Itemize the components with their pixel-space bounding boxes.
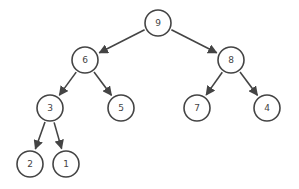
edges-layer xyxy=(35,30,257,149)
tree-node-9: 9 xyxy=(145,10,171,36)
tree-node-5: 5 xyxy=(108,95,134,121)
node-label: 1 xyxy=(63,159,69,169)
node-label: 4 xyxy=(264,103,270,113)
node-label: 6 xyxy=(82,55,88,65)
tree-node-6: 6 xyxy=(72,47,98,73)
node-label: 3 xyxy=(47,103,53,113)
tree-node-8: 8 xyxy=(218,47,244,73)
tree-diagram: 968357421 xyxy=(0,0,299,189)
edge-9-to-8 xyxy=(171,30,216,53)
node-label: 2 xyxy=(27,159,33,169)
node-label: 9 xyxy=(155,18,161,28)
tree-node-4: 4 xyxy=(254,95,280,121)
node-label: 7 xyxy=(194,103,200,113)
node-label: 5 xyxy=(118,103,124,113)
edge-3-to-1 xyxy=(54,122,62,148)
edge-8-to-7 xyxy=(206,72,222,95)
tree-node-3: 3 xyxy=(37,95,63,121)
edge-9-to-6 xyxy=(99,30,144,53)
edge-6-to-3 xyxy=(59,72,76,95)
node-label: 8 xyxy=(228,55,234,65)
edge-8-to-4 xyxy=(240,72,257,95)
edge-3-to-2 xyxy=(35,122,45,149)
tree-node-2: 2 xyxy=(17,151,43,177)
tree-node-7: 7 xyxy=(184,95,210,121)
tree-node-1: 1 xyxy=(53,151,79,177)
edge-6-to-5 xyxy=(94,72,111,95)
nodes-layer: 968357421 xyxy=(17,10,280,177)
